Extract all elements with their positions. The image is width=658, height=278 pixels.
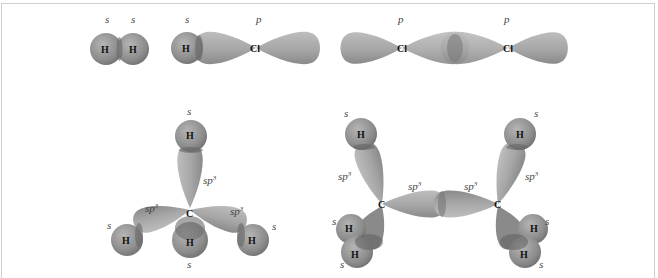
- orbital-label-s: s: [107, 219, 111, 231]
- orbital-label-s: s: [340, 258, 344, 270]
- overlap-region: [500, 234, 528, 250]
- atom-c: C: [186, 208, 193, 219]
- atom-h: H: [129, 44, 137, 55]
- atom-h: H: [357, 129, 365, 140]
- orbital-label-p: p: [503, 13, 510, 25]
- overlap-region: [355, 234, 383, 250]
- overlap-region: [117, 37, 123, 61]
- p-orbital-lobe: [256, 32, 320, 64]
- p-orbital-lobe: [341, 32, 403, 64]
- orbital-label-p: p: [397, 13, 404, 25]
- orbital-label-s: s: [131, 13, 135, 25]
- overlap-region: [135, 223, 143, 247]
- atom-h: H: [186, 237, 194, 248]
- atom-h: H: [520, 249, 528, 260]
- atom-cl: Cl: [397, 43, 407, 54]
- atom-c: C: [378, 199, 385, 210]
- atom-c: C: [494, 199, 501, 210]
- orbital-label-s: s: [187, 105, 191, 117]
- atom-h: H: [122, 235, 130, 246]
- orbital-label-p: p: [255, 13, 262, 25]
- orbital-label-sp3: sp3: [464, 180, 478, 192]
- overlap-region: [179, 147, 203, 153]
- overlap-region: [237, 223, 245, 247]
- c2h6-molecule: H H H H H H C C s s sp3 sp3 sp3 sp3 s s …: [332, 107, 549, 270]
- orbital-label-s: s: [187, 258, 191, 270]
- orbital-overlap-diagram: s s H H s p H Cl p p Cl Cl: [0, 0, 658, 278]
- atom-h: H: [248, 235, 256, 246]
- overlap-region: [353, 144, 375, 150]
- atom-h: H: [101, 44, 109, 55]
- overlap-region: [447, 34, 463, 62]
- atom-cl: Cl: [250, 43, 260, 54]
- atom-h: H: [351, 249, 359, 260]
- overlap-region: [195, 35, 203, 61]
- orbital-label-s: s: [534, 107, 538, 119]
- ch4-molecule: H H H H C s sp3 sp3 sp3 s s s: [107, 105, 276, 270]
- atom-h: H: [345, 223, 353, 234]
- sp3-orbital-lobe: [177, 144, 203, 208]
- orbital-label-sp3: sp3: [408, 180, 422, 192]
- orbital-label-s: s: [185, 13, 189, 25]
- overlap-region: [506, 144, 528, 150]
- atom-h: H: [530, 223, 538, 234]
- orbital-label-s: s: [545, 215, 549, 227]
- h2-molecule: s s H H: [90, 13, 149, 65]
- atom-cl: Cl: [503, 43, 513, 54]
- p-orbital-lobe: [508, 32, 568, 64]
- overlap-region: [438, 191, 446, 217]
- atom-h: H: [186, 130, 194, 141]
- atom-h: H: [182, 43, 190, 54]
- hcl-molecule: s p H Cl: [171, 13, 320, 64]
- atom-h: H: [516, 129, 524, 140]
- cl2-molecule: p p Cl Cl: [341, 13, 568, 64]
- orbital-label-s: s: [272, 220, 276, 232]
- orbital-label-sp3: sp3: [203, 174, 217, 186]
- orbital-label-sp3: sp3: [525, 170, 539, 182]
- p-orbital-lobe: [195, 32, 257, 64]
- orbital-label-s: s: [539, 258, 543, 270]
- orbital-label-s: s: [105, 13, 109, 25]
- orbital-label-s: s: [332, 215, 336, 227]
- orbital-label-s: s: [344, 107, 348, 119]
- orbital-label-sp3: sp3: [338, 170, 352, 182]
